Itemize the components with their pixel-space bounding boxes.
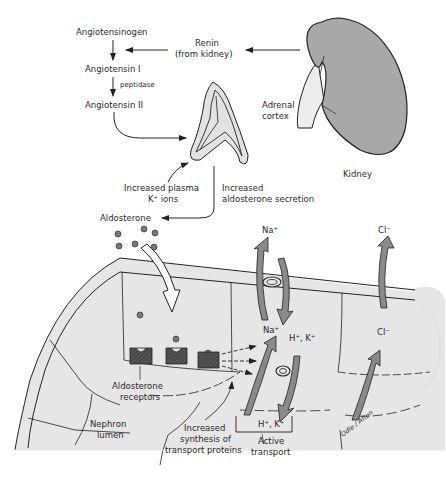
diagram-canvas: Kidney Renin (from kidney) Angiotensinog… (0, 0, 446, 490)
cl-extracellular-label: Cl⁻ (378, 225, 391, 235)
aldosterone-label: Aldosterone (100, 213, 151, 223)
angiotensinogen-label: Angiotensinogen (76, 27, 148, 37)
cortex-label: cortex (262, 111, 289, 121)
angiotensin-i-label: Angiotensin I (85, 64, 141, 74)
active-label: Active (258, 436, 284, 446)
na-extracellular-label: Na⁺ (262, 225, 278, 235)
k-ions-label: K⁺ ions (148, 194, 179, 204)
hk-intracellular-label: H⁺, K⁺ (289, 333, 315, 343)
nephron-label: Nephron (90, 419, 126, 429)
aldosterone-molecules (115, 226, 158, 250)
plasma-k-arrow (168, 163, 188, 182)
renin-label: Renin (195, 38, 219, 48)
synthesis-label: Increased (184, 423, 225, 433)
synthesis-label-line2: synthesis of (180, 434, 232, 444)
receptors-label: Aldosterone (112, 381, 163, 391)
adrenal-cortex-illustration (190, 82, 248, 164)
transport-label: transport (251, 447, 291, 457)
na-intracellular-label: Na⁺ (263, 325, 279, 335)
kidney-label: Kidney (343, 169, 372, 179)
adrenal-label: Adrenal (262, 100, 295, 110)
synthesis-label-line3: transport proteins (165, 445, 242, 455)
angiotensin-ii-to-adrenal-arrow (114, 112, 186, 138)
cl-intracellular-label: Cl⁻ (377, 327, 390, 337)
receptors-label-line2: receptors (120, 392, 161, 402)
angiotensin-ii-label: Angiotensin II (85, 100, 143, 110)
kidney-illustration (297, 18, 407, 155)
lumen-label: lumen (97, 430, 124, 440)
aldosterone-secretion-label: aldosterone secretion (222, 194, 314, 204)
renin-source-label: (from kidney) (175, 49, 232, 59)
secretion-label: Increased (222, 183, 263, 193)
peptidase-label: peptidase (120, 81, 155, 89)
plasma-label: Increased plasma (124, 183, 199, 193)
hk-lumen-label: H⁺, K⁺ (258, 419, 284, 429)
